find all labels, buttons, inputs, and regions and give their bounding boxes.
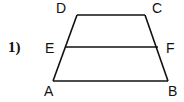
vertex-label-c: C [152, 0, 162, 16]
segment-cb [145, 15, 168, 81]
vertex-label-a: A [44, 83, 54, 99]
problem-number: 1) [8, 39, 21, 56]
point-label-f: F [166, 40, 175, 56]
vertex-label-d: D [56, 0, 66, 16]
segment-da [53, 15, 77, 81]
trapezoid-diagram: 1) D C E F A B [0, 0, 184, 102]
vertex-label-b: B [168, 83, 177, 99]
point-label-e: E [45, 40, 54, 56]
